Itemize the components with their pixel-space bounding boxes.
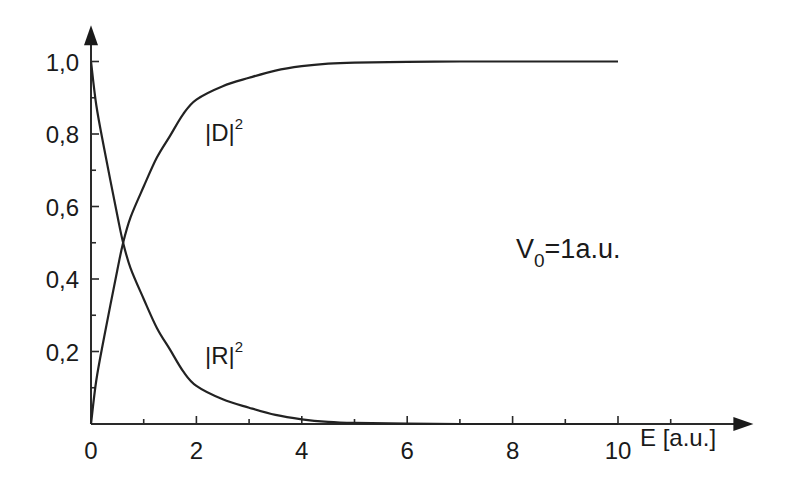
- series-label-d-sup: 2: [235, 115, 243, 132]
- x-tick-label: 2: [190, 437, 203, 464]
- series-label-d-main: |D|: [205, 119, 235, 146]
- potential-label-sub: 0: [534, 250, 545, 271]
- x-axis-arrow-icon: [733, 417, 753, 431]
- y-axis-arrow-icon: [84, 25, 98, 45]
- axes: [84, 25, 753, 431]
- series-label-r: |R|2: [205, 338, 243, 369]
- series-label-d: |D|2: [205, 115, 243, 146]
- x-tick-label: 8: [506, 437, 519, 464]
- x-tick-label: 4: [295, 437, 308, 464]
- y-tick-label: 0,4: [46, 266, 79, 293]
- series-label-r-sup: 2: [235, 338, 243, 355]
- potential-label-rest: =1a.u.: [545, 234, 621, 264]
- x-axis-label: E [a.u.]: [640, 424, 716, 451]
- y-tick-label: 0,8: [46, 121, 79, 148]
- x-tick-label: 10: [605, 437, 632, 464]
- x-tick-label: 6: [401, 437, 414, 464]
- y-tick-label: 0,6: [46, 194, 79, 221]
- series-line-r: [91, 62, 618, 425]
- potential-label: V0=1a.u.: [516, 234, 620, 271]
- y-tick-label: 1,0: [46, 49, 79, 76]
- series-label-r-main: |R|: [205, 342, 235, 369]
- x-tick-label: 0: [84, 437, 97, 464]
- y-tick-label: 0,2: [46, 339, 79, 366]
- curves: [91, 61, 618, 424]
- series-line-d: [91, 61, 618, 424]
- potential-label-main: V: [516, 234, 534, 264]
- chart: 02468100,20,40,60,81,0 E [a.u.] |D|2 |R|…: [0, 0, 788, 498]
